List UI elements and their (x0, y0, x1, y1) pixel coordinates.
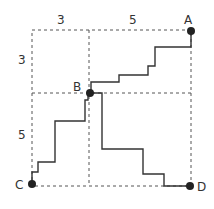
point-b-dot (86, 89, 94, 97)
point-a-label: A (184, 13, 193, 27)
dim-left-bottom: 5 (18, 128, 26, 142)
path-c-to-b (32, 93, 88, 183)
point-b-label: B (73, 80, 81, 94)
dim-top-left: 3 (57, 13, 65, 27)
dashed-grid (32, 30, 191, 186)
dim-left-top: 3 (18, 53, 26, 67)
point-d-label: D (197, 180, 206, 194)
point-c-dot (28, 180, 36, 188)
path-b-to-d (91, 93, 190, 186)
point-a-dot (187, 27, 195, 35)
path-a-to-b (91, 31, 191, 93)
point-d-dot (186, 182, 194, 190)
lattice-path-diagram: A B C D 3 5 3 5 (0, 0, 214, 209)
dim-top-right: 5 (129, 13, 137, 27)
point-c-label: C (15, 178, 23, 192)
